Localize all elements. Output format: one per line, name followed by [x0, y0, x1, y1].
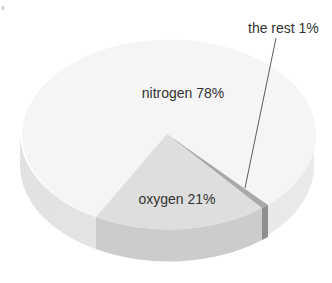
oxygen-label: oxygen 21% — [138, 191, 215, 207]
nitrogen-label: nitrogen 78% — [142, 85, 225, 101]
rest-label: the rest 1% — [248, 20, 319, 36]
rest-side — [262, 205, 268, 240]
pie-chart: nitrogen 78% oxygen 21% the rest 1% — [0, 0, 332, 283]
